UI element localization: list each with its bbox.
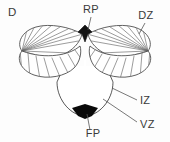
neural-tube-diagram: D RP DZ IZ VZ FP — [0, 0, 170, 142]
rp-leader-line — [88, 17, 91, 30]
label-fp: FP — [86, 127, 101, 139]
vz-leader-line — [103, 99, 137, 122]
label-vz: VZ — [140, 118, 155, 130]
label-rp: RP — [83, 3, 99, 15]
label-dz: DZ — [138, 9, 153, 21]
figure-container: D RP DZ IZ VZ FP — [0, 0, 170, 142]
label-iz: IZ — [140, 94, 150, 106]
iz-leader-line — [112, 88, 137, 100]
panel-label-d: D — [8, 6, 16, 18]
